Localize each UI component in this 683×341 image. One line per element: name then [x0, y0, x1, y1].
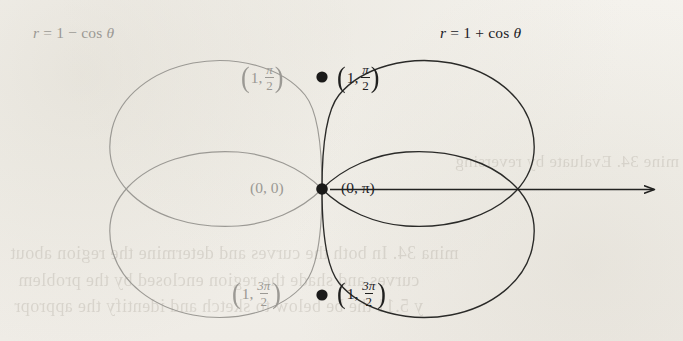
equation-label-right-curve: r = 1 + cos θ — [440, 25, 521, 41]
point-r-value: 1 — [242, 286, 250, 302]
eq-left-var: r — [33, 25, 39, 41]
fraction-denominator: 2 — [265, 77, 274, 92]
fraction-numerator: 3π — [361, 279, 376, 293]
rparen: ) — [371, 66, 380, 90]
theta-fraction: π 2 — [265, 63, 274, 92]
left-cardioid-curve — [110, 61, 322, 318]
fraction-denominator: 2 — [361, 77, 370, 92]
point-label-top-right: ( 1 , π 2 ) — [337, 63, 379, 92]
fraction-denominator: 2 — [365, 293, 374, 308]
equation-label-left-curve: r = 1 − cos θ — [33, 25, 114, 41]
theta-fraction: 3π 2 — [256, 279, 271, 308]
intersection-dot-origin — [316, 183, 328, 195]
eq-right-var: r — [440, 25, 446, 41]
fraction-numerator: 3π — [256, 279, 271, 293]
fraction-denominator: 2 — [260, 293, 269, 308]
eq-left-theta: θ — [107, 25, 115, 41]
comma: , — [354, 70, 358, 86]
rparen: ) — [377, 282, 386, 306]
point-label-bottom-left: ( 1 , 3π 2 ) — [232, 279, 281, 308]
lparen: ( — [241, 66, 250, 90]
point-r-value: 1 — [251, 70, 259, 86]
polar-curves-figure: mine 34. Evaluate by reversing mina 34. … — [0, 0, 683, 341]
eq-left-rhs: 1 − cos — [56, 25, 102, 41]
eq-right-theta: θ — [514, 25, 522, 41]
lparen: ( — [232, 282, 241, 306]
intersection-dot-bottom — [316, 289, 327, 300]
comma: , — [258, 70, 262, 86]
rparen: ) — [272, 282, 281, 306]
eq-left-equals: = — [43, 25, 52, 41]
lparen: ( — [337, 66, 346, 90]
point-label-origin-left: (0, 0) — [250, 180, 284, 196]
theta-fraction: π 2 — [361, 63, 370, 92]
point-label-bottom-right: ( 1 , 3π 2 ) — [337, 279, 386, 308]
point-r-value: 1 — [347, 286, 355, 302]
intersection-dot-top — [316, 71, 327, 82]
point-r-value: 1 — [347, 70, 355, 86]
point-label-origin-right: (0, π) — [341, 180, 375, 196]
theta-fraction: 3π 2 — [361, 279, 376, 308]
fraction-numerator: π — [361, 63, 370, 77]
fraction-numerator: π — [265, 63, 274, 77]
rparen: ) — [275, 66, 284, 90]
point-label-top-left: ( 1 , π 2 ) — [241, 63, 283, 92]
comma: , — [249, 286, 253, 302]
lparen: ( — [337, 282, 346, 306]
comma: , — [354, 286, 358, 302]
eq-right-equals: = — [450, 25, 459, 41]
eq-right-rhs: 1 + cos — [463, 25, 509, 41]
